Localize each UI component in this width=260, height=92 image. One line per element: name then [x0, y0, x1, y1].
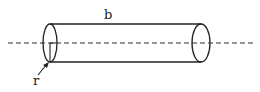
length-label: b: [104, 7, 112, 22]
radius-label: r: [33, 73, 40, 88]
cylinder-diagram: b r: [0, 0, 260, 92]
